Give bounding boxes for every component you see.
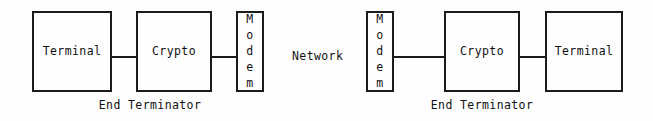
group-caption-left-end-terminator: End Terminator [0, 100, 300, 112]
node-left-crypto-label: Crypto [152, 46, 196, 58]
node-right-modem-label: Modem [376, 11, 383, 91]
stacked-char: M [246, 14, 253, 26]
stacked-char: e [376, 62, 383, 74]
connector-left-crypto-to-modem [212, 56, 236, 58]
node-right-crypto: Crypto [444, 11, 520, 92]
node-right-crypto-label: Crypto [460, 46, 504, 58]
stacked-char: o [376, 30, 383, 42]
node-left-terminal: Terminal [32, 11, 112, 92]
node-left-crypto: Crypto [136, 11, 212, 92]
stacked-char: m [376, 78, 383, 90]
network-label: Network [292, 51, 343, 63]
stacked-char: d [246, 46, 253, 58]
connector-right-crypto-to-terminal [520, 56, 545, 58]
node-left-terminal-label: Terminal [43, 46, 102, 58]
node-right-modem: Modem [366, 11, 394, 92]
connector-left-terminal-to-crypto [112, 56, 136, 58]
connector-right-modem-to-crypto [394, 56, 444, 58]
node-right-terminal-label: Terminal [555, 46, 614, 58]
block-diagram: Terminal Crypto Modem Network Modem Cryp… [0, 0, 653, 121]
group-caption-right-end-terminator: End Terminator [332, 100, 632, 112]
stacked-char: e [246, 62, 253, 74]
stacked-char: d [376, 46, 383, 58]
stacked-char: o [246, 30, 253, 42]
node-right-terminal: Terminal [545, 11, 623, 92]
stacked-char: m [246, 78, 253, 90]
node-left-modem-label: Modem [246, 11, 253, 91]
node-left-modem: Modem [236, 11, 264, 92]
stacked-char: M [376, 14, 383, 26]
